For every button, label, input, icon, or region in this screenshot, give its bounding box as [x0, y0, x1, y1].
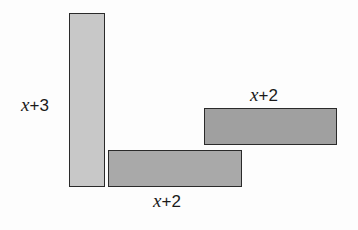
right-rectangle — [204, 108, 337, 145]
label-num: 2 — [268, 86, 277, 105]
diagram-canvas: x+3 x+2 x+2 — [0, 0, 358, 230]
label-op: + — [29, 96, 39, 115]
tall-rectangle — [69, 13, 105, 187]
label-num: 3 — [39, 96, 48, 115]
bottom-rectangle — [108, 150, 242, 187]
tall-rect-label: x+3 — [21, 94, 49, 116]
right-rect-label: x+2 — [250, 84, 278, 106]
label-num: 2 — [171, 192, 180, 211]
label-op: + — [258, 86, 268, 105]
bottom-rect-label: x+2 — [153, 190, 181, 212]
label-op: + — [161, 192, 171, 211]
